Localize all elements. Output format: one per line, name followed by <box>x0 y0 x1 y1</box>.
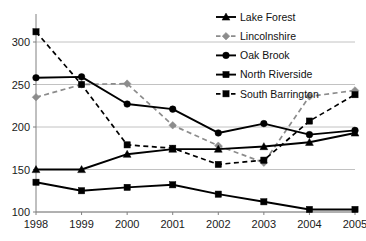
series-line <box>36 182 355 209</box>
chart-svg: 100150200250300 199819992000200120022003… <box>0 0 366 241</box>
data-point <box>32 93 40 101</box>
data-point <box>124 101 131 108</box>
y-tick-label: 100 <box>12 206 30 218</box>
data-point <box>33 179 39 185</box>
data-point <box>306 206 312 212</box>
y-tick-label: 250 <box>12 79 30 91</box>
data-point <box>78 74 85 81</box>
data-point <box>261 157 267 163</box>
legend-label: Oak Brook <box>240 49 290 61</box>
data-point <box>169 122 177 130</box>
x-tick-label: 2003 <box>252 218 276 230</box>
y-tick-label: 200 <box>12 121 30 133</box>
chart-legend: Lake ForestLincolnshireOak BrookNorth Ri… <box>216 11 319 100</box>
x-tick-label: 2002 <box>206 218 230 230</box>
data-point <box>215 130 222 137</box>
x-tick-label: 2005 <box>343 218 366 230</box>
data-point <box>306 118 312 124</box>
data-point <box>33 29 39 35</box>
data-point <box>33 74 40 81</box>
y-tick-label: 300 <box>12 36 30 48</box>
legend-marker-icon <box>223 52 230 59</box>
legend-entry-north-riverside[interactable]: North Riverside <box>216 68 313 80</box>
data-series-group <box>32 29 359 213</box>
x-tick-label: 1999 <box>69 218 93 230</box>
legend-entry-lake-forest[interactable]: Lake Forest <box>216 11 296 23</box>
x-tick-label: 1998 <box>24 218 48 230</box>
legend-marker-icon <box>223 91 229 97</box>
legend-marker-icon <box>223 72 229 78</box>
x-tick-labels-group: 19981999200020012002200320042005 <box>24 218 366 230</box>
data-point <box>215 161 221 167</box>
series-north-riverside <box>33 179 358 212</box>
legend-label: North Riverside <box>240 68 313 80</box>
legend-label: South Barrington <box>240 88 319 100</box>
legend-label: Lincolnshire <box>240 30 296 42</box>
data-point <box>170 182 176 188</box>
axes-group <box>33 14 355 215</box>
data-point <box>78 81 84 87</box>
data-point <box>124 184 130 190</box>
legend-entry-oak-brook[interactable]: Oak Brook <box>216 49 290 61</box>
x-tick-label: 2000 <box>115 218 139 230</box>
x-tick-label: 2001 <box>160 218 184 230</box>
legend-entry-lincolnshire[interactable]: Lincolnshire <box>216 30 296 42</box>
data-point <box>352 127 359 134</box>
legend-marker-icon <box>222 32 230 40</box>
y-tick-labels-group: 100150200250300 <box>12 36 30 218</box>
data-point <box>352 92 358 98</box>
data-point <box>78 188 84 194</box>
data-point <box>261 199 267 205</box>
legend-label: Lake Forest <box>240 11 296 23</box>
data-point <box>261 120 268 127</box>
data-point <box>352 206 358 212</box>
data-point <box>306 131 313 138</box>
data-point <box>124 142 130 148</box>
data-point <box>215 191 221 197</box>
legend-entry-south-barrington[interactable]: South Barrington <box>216 88 319 100</box>
data-point <box>169 106 176 113</box>
line-chart: 100150200250300 199819992000200120022003… <box>0 0 366 241</box>
series-line <box>36 133 355 170</box>
x-tick-label: 2004 <box>297 218 321 230</box>
y-tick-label: 150 <box>12 164 30 176</box>
